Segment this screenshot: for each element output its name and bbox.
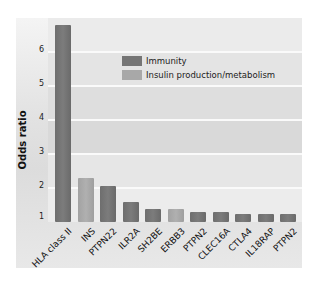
- y-tick-label: 6: [30, 45, 44, 54]
- legend-item-immunity: Immunity: [122, 55, 275, 67]
- legend-label-immunity: Immunity: [146, 56, 187, 66]
- y-tick-label: 2: [30, 181, 44, 190]
- y-axis-label: Odds ratio: [17, 110, 28, 169]
- bar: [258, 214, 274, 222]
- y-tick-label: 3: [30, 147, 44, 156]
- grid-band: [48, 18, 302, 52]
- bar: [168, 209, 184, 222]
- bar: [100, 186, 116, 222]
- gridline: [48, 85, 302, 87]
- gridline: [48, 51, 302, 53]
- gridline: [48, 153, 302, 155]
- insulin-swatch-icon: [122, 70, 142, 80]
- y-tick-label: 4: [30, 113, 44, 122]
- legend-item-insulin: Insulin production/metabolism: [122, 69, 275, 81]
- grid-band: [48, 86, 302, 120]
- gridline: [48, 119, 302, 121]
- bar: [213, 212, 229, 222]
- bar: [235, 214, 251, 222]
- bar: [190, 212, 206, 222]
- y-tick-label: 5: [30, 79, 44, 88]
- legend: Immunity Insulin production/metabolism: [122, 55, 275, 83]
- immunity-swatch-icon: [122, 56, 142, 66]
- legend-label-insulin: Insulin production/metabolism: [146, 70, 275, 80]
- bar: [145, 209, 161, 222]
- bar: [55, 25, 71, 222]
- bar: [78, 178, 94, 222]
- bar: [280, 214, 296, 222]
- bar: [123, 202, 139, 222]
- grid-band: [48, 120, 302, 154]
- y-tick-label: 1: [30, 212, 44, 221]
